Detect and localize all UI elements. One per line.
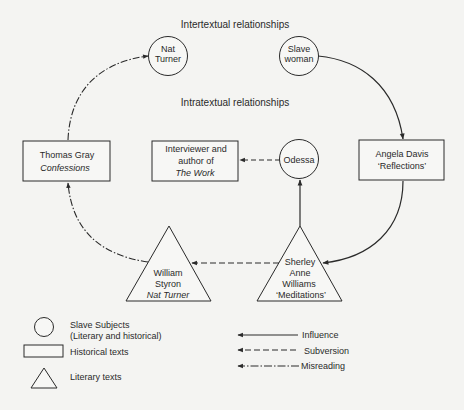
- angela-davis-label: Angela Davis: [375, 149, 429, 159]
- edge-slave-woman-to-angela-davis: [318, 56, 403, 139]
- legend-circle-label-1: Slave Subjects: [70, 320, 130, 330]
- legend-rectangle-icon: [24, 345, 63, 357]
- legend-circle-label-2: (Literary and historical): [70, 331, 162, 341]
- sherley-label-2: Anne: [289, 268, 310, 278]
- styron-title: Nat Turner: [147, 290, 190, 300]
- interviewer-label-1: Interviewer and: [165, 144, 227, 154]
- interviewer-title: The Work: [175, 168, 215, 178]
- sherley-label-3: Williams: [282, 279, 316, 289]
- node-nat-turner: Nat Turner: [149, 37, 188, 76]
- legend-misreading-label: Misreading: [301, 361, 345, 371]
- edge-styron-to-thomas-gray: [68, 183, 148, 262]
- nat-turner-label-1: Nat: [161, 44, 176, 54]
- legend-triangle-label: Literary texts: [70, 372, 122, 382]
- node-odessa: Odessa: [280, 140, 319, 179]
- odessa-label: Odessa: [283, 155, 314, 165]
- slave-woman-label-1: Slave: [288, 44, 311, 54]
- legend-shapes: Slave Subjects (Literary and historical)…: [24, 318, 162, 389]
- node-styron: William Styron Nat Turner: [126, 226, 211, 301]
- angela-davis-title: ‘Reflections’: [378, 161, 427, 171]
- node-slave-woman: Slave woman: [280, 37, 319, 76]
- diagram-canvas: Intertextual relationships Intratextual …: [0, 0, 464, 410]
- styron-label-1: William: [154, 268, 183, 278]
- interviewer-label-2: author of: [178, 156, 214, 166]
- legend-triangle-icon: [31, 368, 57, 388]
- sherley-label-1: Sherley: [285, 257, 316, 267]
- styron-label-2: Styron: [155, 279, 181, 289]
- intratextual-heading: Intratextual relationships: [181, 97, 289, 108]
- node-thomas-gray: Thomas Gray Confessions: [23, 141, 110, 181]
- nat-turner-label-2: Turner: [155, 54, 181, 64]
- legend-lines: Influence Subversion Misreading: [238, 330, 349, 371]
- node-angela-davis: Angela Davis ‘Reflections’: [359, 140, 444, 180]
- edge-thomas-gray-to-nat-turner: [68, 56, 148, 140]
- legend-subversion-label: Subversion: [304, 346, 349, 356]
- sherley-title: ‘Meditations’: [276, 290, 326, 300]
- thomas-gray-title: Confessions: [40, 163, 90, 173]
- intertextual-heading: Intertextual relationships: [181, 19, 289, 30]
- thomas-gray-label: Thomas Gray: [40, 150, 95, 160]
- slave-woman-label-2: woman: [283, 54, 313, 64]
- node-interviewer: Interviewer and author of The Work: [152, 141, 238, 181]
- edge-angela-davis-to-sherley: [323, 181, 403, 263]
- legend-influence-label: Influence: [302, 330, 339, 340]
- legend-rectangle-label: Historical texts: [70, 347, 129, 357]
- legend-circle-icon: [35, 318, 54, 337]
